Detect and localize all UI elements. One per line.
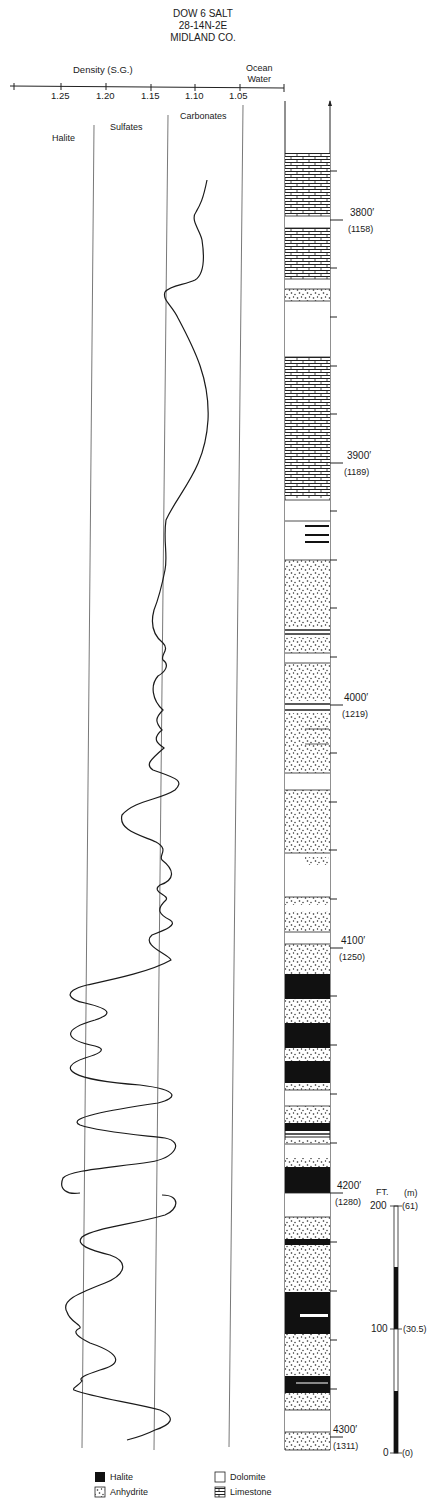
layer-anhydrite	[285, 999, 330, 1023]
layer-halite	[285, 974, 330, 999]
legend-halite: Halite	[110, 1472, 133, 1482]
layer-anhydrite	[285, 1083, 330, 1090]
layer-anhydrite	[285, 1048, 330, 1061]
scale-mid-m: (30.5)	[403, 1324, 427, 1334]
layer-anhydrite	[285, 790, 330, 846]
diagram-canvas	[0, 0, 441, 1501]
depth-ticks	[330, 171, 343, 1437]
layer-halite	[285, 1239, 330, 1245]
layer-anhydrite	[285, 713, 330, 773]
layer-anhydrite	[285, 1158, 330, 1167]
layer-anhydrite	[285, 663, 330, 701]
depth-label-4200: 4200′	[337, 1180, 361, 1192]
layer-anhydrite	[285, 637, 330, 653]
scale-top-ft: 200	[370, 1201, 387, 1211]
layer-halite	[285, 1123, 330, 1131]
layer-anhydrite	[285, 944, 330, 974]
layer-halite	[285, 1167, 330, 1193]
scale-mid-ft: 100	[371, 1324, 388, 1334]
scale-ft-header: FT.	[376, 1187, 389, 1197]
layer-anhydrite	[285, 1432, 330, 1450]
depth-label-4000: 4000′	[344, 692, 368, 704]
layer-halite	[285, 1023, 330, 1048]
depth-label-4300: 4300′	[333, 1424, 357, 1436]
depth-label-3900: 3900′	[347, 450, 371, 462]
density-axis	[10, 83, 284, 92]
depth-label-m-1311: (1311)	[333, 1440, 358, 1452]
layer-anhydrite	[285, 911, 330, 932]
layer-limestone	[285, 228, 330, 279]
depth-label-m-1219: (1219)	[342, 708, 368, 720]
depth-label-m-1189: (1189)	[344, 466, 369, 478]
layer-limestone	[285, 357, 330, 498]
layer-halite	[285, 1292, 330, 1334]
layer-anhydrite	[285, 1106, 330, 1123]
layer-anhydrite	[285, 1334, 330, 1376]
lithology-column	[285, 100, 343, 1450]
legend-dolomite: Dolomite	[230, 1472, 266, 1482]
layer-anhydrite	[285, 560, 330, 627]
layer-anhydrite	[285, 1393, 330, 1410]
layer-halite	[285, 1061, 330, 1083]
depth-label-4100: 4100′	[341, 935, 365, 947]
depth-label-m-1158: (1158)	[348, 223, 373, 235]
layer-limestone	[285, 153, 330, 216]
density-curve	[62, 180, 208, 1193]
scale-bar	[390, 1206, 402, 1453]
layer-anhydrite	[285, 1245, 330, 1292]
zone-boundaries	[82, 105, 243, 1450]
depth-label-m-1250: (1250)	[339, 951, 365, 963]
depth-label-3800: 3800′	[350, 207, 374, 219]
scale-bot-ft: 0	[383, 1448, 389, 1458]
layer-anhydrite	[285, 897, 330, 905]
legend-limestone: Limestone	[230, 1487, 272, 1497]
layer-anhydrite	[285, 289, 330, 301]
scale-m-header: (m)	[404, 1188, 418, 1198]
layer-anhydrite	[285, 1217, 330, 1239]
scale-bot-m: (0)	[402, 1448, 413, 1458]
scale-top-m: (61)	[402, 1201, 418, 1211]
depth-label-m-1280: (1280)	[335, 1196, 361, 1208]
legend-anhydrite: Anhydrite	[110, 1487, 148, 1497]
layer-halite	[285, 1376, 330, 1393]
